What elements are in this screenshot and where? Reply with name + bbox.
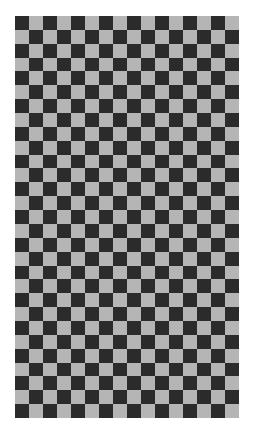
dark-square	[127, 155, 141, 169]
dark-square	[113, 224, 127, 238]
dark-square	[43, 155, 57, 169]
dark-square	[113, 307, 127, 321]
light-square	[15, 141, 29, 155]
dark-square	[169, 390, 183, 404]
light-square	[57, 71, 71, 85]
light-square	[225, 349, 239, 363]
dark-square	[29, 363, 43, 377]
dark-square	[225, 141, 239, 155]
light-square	[211, 58, 225, 72]
dark-square	[155, 238, 169, 252]
light-square	[85, 44, 99, 58]
dark-square	[211, 266, 225, 280]
dark-square	[99, 238, 113, 252]
dark-square	[71, 16, 85, 30]
light-square	[71, 224, 85, 238]
light-square	[113, 71, 127, 85]
light-square	[15, 58, 29, 72]
light-square	[99, 113, 113, 127]
dark-square	[113, 141, 127, 155]
light-square	[211, 279, 225, 293]
light-square	[43, 85, 57, 99]
light-square	[169, 349, 183, 363]
light-square	[127, 58, 141, 72]
light-square	[29, 155, 43, 169]
light-square	[155, 30, 169, 44]
light-square	[57, 266, 71, 280]
light-square	[225, 404, 239, 418]
light-square	[43, 335, 57, 349]
dark-square	[141, 196, 155, 210]
dark-square	[43, 182, 57, 196]
dark-square	[85, 307, 99, 321]
dark-square	[127, 99, 141, 113]
light-square	[99, 141, 113, 155]
light-square	[15, 85, 29, 99]
light-square	[211, 307, 225, 321]
light-square	[211, 113, 225, 127]
light-square	[127, 85, 141, 99]
dark-square	[43, 16, 57, 30]
dark-square	[113, 168, 127, 182]
light-square	[99, 196, 113, 210]
dark-square	[29, 168, 43, 182]
light-square	[29, 127, 43, 141]
dark-square	[225, 30, 239, 44]
light-square	[183, 141, 197, 155]
dark-square	[211, 127, 225, 141]
dark-square	[99, 99, 113, 113]
light-square	[71, 335, 85, 349]
dark-square	[225, 363, 239, 377]
light-square	[57, 182, 71, 196]
light-square	[197, 127, 211, 141]
light-square	[113, 99, 127, 113]
dark-square	[197, 307, 211, 321]
light-square	[169, 321, 183, 335]
dark-square	[155, 44, 169, 58]
dark-square	[113, 390, 127, 404]
light-square	[85, 376, 99, 390]
dark-square	[85, 224, 99, 238]
light-square	[85, 266, 99, 280]
dark-square	[211, 404, 225, 418]
dark-square	[211, 321, 225, 335]
dark-square	[113, 252, 127, 266]
light-square	[113, 127, 127, 141]
light-square	[99, 58, 113, 72]
light-square	[211, 335, 225, 349]
dark-square	[57, 252, 71, 266]
light-square	[99, 335, 113, 349]
dark-square	[225, 252, 239, 266]
light-square	[85, 16, 99, 30]
dark-square	[85, 85, 99, 99]
light-square	[155, 279, 169, 293]
dark-square	[99, 182, 113, 196]
dark-square	[197, 196, 211, 210]
light-square	[85, 71, 99, 85]
light-square	[169, 293, 183, 307]
dark-square	[197, 224, 211, 238]
dark-square	[99, 376, 113, 390]
light-square	[57, 293, 71, 307]
dark-square	[57, 196, 71, 210]
light-square	[99, 390, 113, 404]
dark-square	[57, 224, 71, 238]
light-square	[57, 321, 71, 335]
light-square	[183, 335, 197, 349]
dark-square	[57, 168, 71, 182]
light-square	[197, 182, 211, 196]
light-square	[183, 390, 197, 404]
light-square	[225, 71, 239, 85]
light-square	[113, 16, 127, 30]
dark-square	[141, 58, 155, 72]
light-square	[113, 376, 127, 390]
dark-square	[197, 279, 211, 293]
light-square	[127, 307, 141, 321]
light-square	[29, 293, 43, 307]
light-square	[29, 349, 43, 363]
dark-square	[141, 335, 155, 349]
dark-square	[197, 168, 211, 182]
light-square	[225, 266, 239, 280]
dark-square	[155, 266, 169, 280]
light-square	[183, 363, 197, 377]
